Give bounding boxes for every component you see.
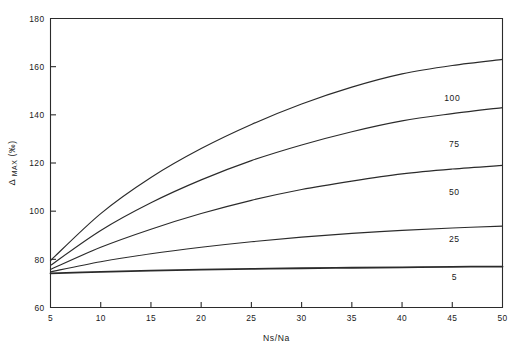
y-tick-label: 120 bbox=[29, 158, 44, 168]
y-tick-label: 180 bbox=[29, 14, 44, 24]
y-tick-label: 140 bbox=[29, 110, 44, 120]
curve-label-5: 5 bbox=[452, 272, 457, 282]
x-tick-label: 15 bbox=[146, 313, 156, 323]
chart-figure: 5101520253035404550 6080100120140160180 … bbox=[0, 0, 518, 352]
x-tick-label: 10 bbox=[96, 313, 106, 323]
curve-label-25: 25 bbox=[449, 234, 460, 244]
x-tick-label: 20 bbox=[196, 313, 206, 323]
x-tick-label: 30 bbox=[297, 313, 307, 323]
curve-label-50: 50 bbox=[449, 187, 460, 197]
x-tick-label: 50 bbox=[497, 313, 507, 323]
y-tick-label: 80 bbox=[34, 255, 44, 265]
x-axis-title: Ns/Na bbox=[263, 333, 290, 343]
curve-label-75: 75 bbox=[449, 139, 460, 149]
x-tick-label: 25 bbox=[246, 313, 256, 323]
y-tick-label: 160 bbox=[29, 62, 44, 72]
x-tick-label: 5 bbox=[48, 313, 53, 323]
x-tick-label: 40 bbox=[397, 313, 407, 323]
y-tick-label: 60 bbox=[34, 303, 44, 313]
y-tick-label: 100 bbox=[29, 206, 44, 216]
curve-label-100: 100 bbox=[444, 93, 460, 103]
x-tick-label: 45 bbox=[447, 313, 457, 323]
chart-background bbox=[0, 0, 518, 352]
x-tick-label: 35 bbox=[347, 313, 357, 323]
